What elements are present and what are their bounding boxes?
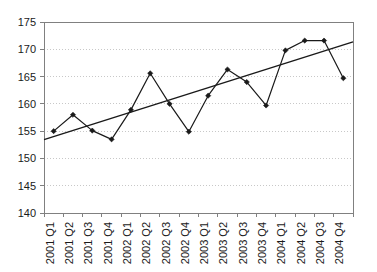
trend-line-series: [44, 42, 353, 140]
svg-text:2003 Q4: 2003 Q4: [256, 222, 268, 264]
svg-text:2004 Q4: 2004 Q4: [333, 222, 345, 264]
svg-text:2001 Q2: 2001 Q2: [63, 222, 75, 264]
svg-text:2004 Q2: 2004 Q2: [295, 222, 307, 264]
svg-text:2001 Q1: 2001 Q1: [44, 222, 56, 264]
line-chart: 140145150155160165170175 2001 Q12001 Q22…: [0, 0, 377, 272]
x-axis-ticks: [44, 213, 353, 217]
data-point-markers: [51, 38, 346, 142]
svg-text:2002 Q4: 2002 Q4: [179, 222, 191, 264]
svg-text:175: 175: [18, 16, 36, 28]
svg-text:2002 Q3: 2002 Q3: [160, 222, 172, 264]
svg-text:155: 155: [18, 125, 36, 137]
chart-container: 140145150155160165170175 2001 Q12001 Q22…: [0, 0, 377, 272]
data-line-series: [54, 41, 344, 140]
svg-text:140: 140: [18, 207, 36, 219]
x-axis-tick-labels: 2001 Q12001 Q22001 Q32001 Q42002 Q12002 …: [44, 222, 346, 264]
plot-area-border: [44, 22, 353, 213]
svg-text:2003 Q3: 2003 Q3: [237, 222, 249, 264]
svg-text:2003 Q1: 2003 Q1: [198, 222, 210, 264]
svg-text:2001 Q4: 2001 Q4: [102, 222, 114, 264]
svg-text:150: 150: [18, 152, 36, 164]
svg-text:145: 145: [18, 180, 36, 192]
y-axis-ticks: [40, 22, 44, 213]
svg-text:165: 165: [18, 71, 36, 83]
svg-text:160: 160: [18, 98, 36, 110]
gridlines: [44, 49, 353, 185]
svg-text:2002 Q2: 2002 Q2: [140, 222, 152, 264]
svg-text:2002 Q1: 2002 Q1: [121, 222, 133, 264]
svg-text:2001 Q3: 2001 Q3: [82, 222, 94, 264]
svg-text:2004 Q3: 2004 Q3: [314, 222, 326, 264]
svg-text:170: 170: [18, 43, 36, 55]
svg-text:2003 Q2: 2003 Q2: [217, 222, 229, 264]
svg-text:2004 Q1: 2004 Q1: [275, 222, 287, 264]
y-axis-tick-labels: 140145150155160165170175: [18, 16, 36, 219]
